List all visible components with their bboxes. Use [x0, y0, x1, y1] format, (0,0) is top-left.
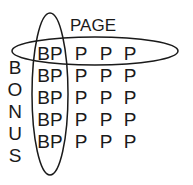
- cell-bp: BP: [37, 88, 62, 107]
- cell-p: P: [100, 88, 113, 107]
- cell-p: P: [124, 44, 137, 63]
- cell-bp: BP: [37, 132, 62, 151]
- bonus-letter: O: [8, 80, 23, 99]
- bonus-letter: N: [8, 102, 22, 121]
- cell-p: P: [100, 132, 113, 151]
- cell-p: P: [124, 132, 137, 151]
- cell-p: P: [124, 88, 137, 107]
- cell-p: P: [124, 110, 137, 129]
- bonus-letter: U: [8, 124, 22, 143]
- cell-p: P: [100, 66, 113, 85]
- cell-p: P: [75, 110, 88, 129]
- bonus-letter: S: [9, 146, 22, 165]
- cell-p: P: [100, 110, 113, 129]
- cell-p: P: [75, 44, 88, 63]
- cell-bp: BP: [37, 110, 62, 129]
- cell-bp: BP: [37, 66, 62, 85]
- cell-bp: BP: [37, 44, 62, 63]
- cell-p: P: [75, 66, 88, 85]
- cell-p: P: [75, 132, 88, 151]
- cell-p: P: [100, 44, 113, 63]
- bonus-letter: B: [9, 58, 22, 77]
- page-label: PAGE: [70, 17, 116, 34]
- cell-p: P: [124, 66, 137, 85]
- cell-p: P: [75, 88, 88, 107]
